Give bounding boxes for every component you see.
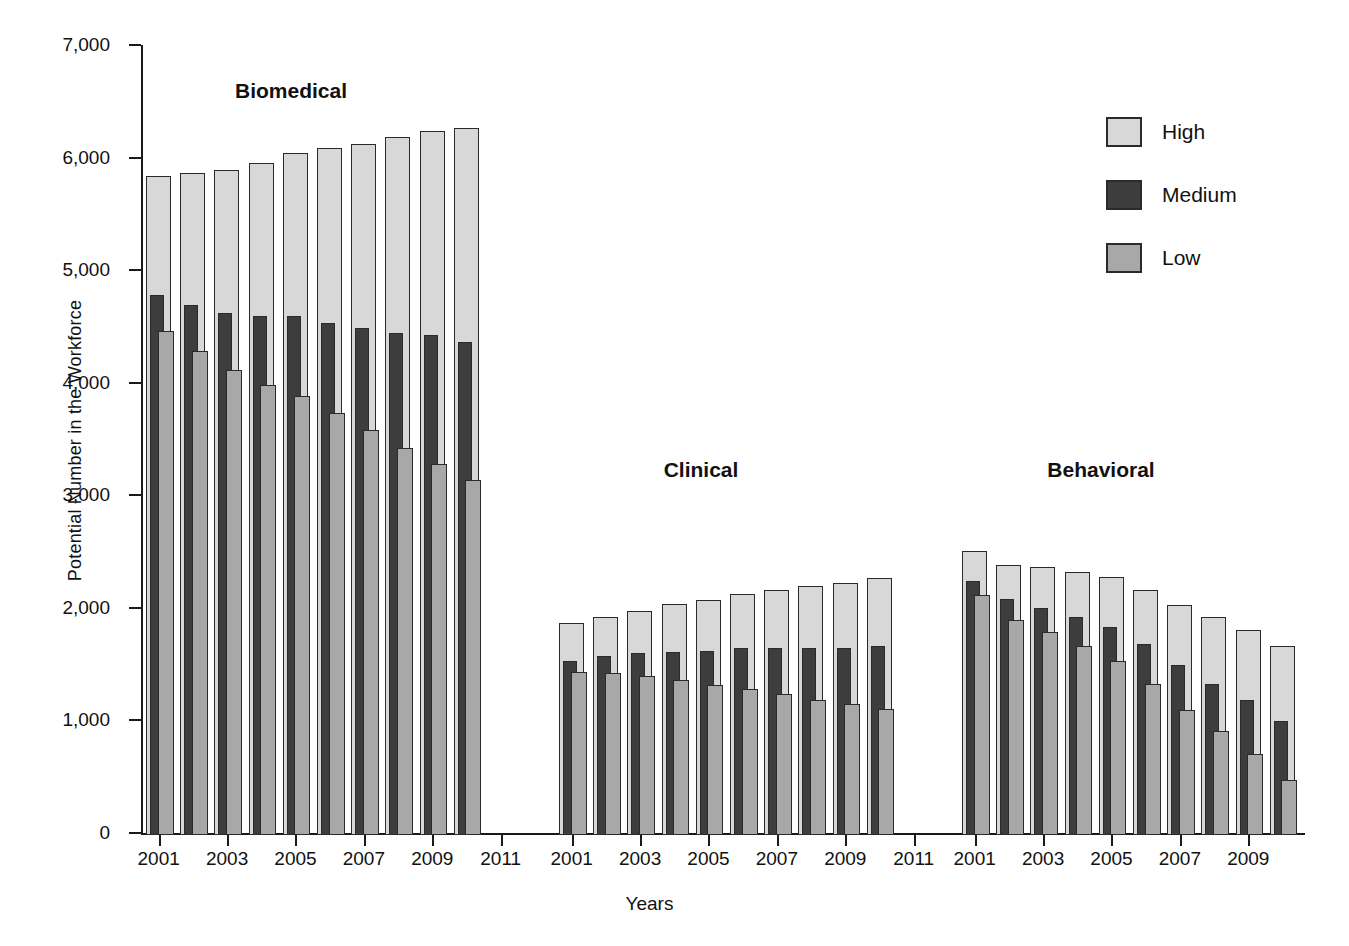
bar-low — [1213, 731, 1229, 835]
x-axis-tick-mark — [432, 835, 434, 846]
x-axis-tick-mark — [572, 835, 574, 846]
bar-slot — [797, 45, 831, 835]
y-axis-title: Potential Number in the Workforce — [65, 261, 86, 621]
y-axis-tick-label: 2,000 — [0, 597, 110, 619]
group-title-biomedical: Biomedical — [235, 79, 347, 103]
bar-slot — [384, 45, 418, 835]
y-axis-tick-mark — [129, 382, 141, 384]
x-axis-tick-label: 2001 — [551, 848, 593, 870]
bar-slot — [626, 45, 660, 835]
bar-slot — [350, 45, 384, 835]
bar-low — [363, 430, 379, 835]
legend: HighMediumLow — [1106, 100, 1336, 289]
bar-low — [1145, 684, 1161, 835]
bar-low — [1110, 661, 1126, 835]
legend-label: High — [1162, 120, 1205, 144]
x-axis-title: Years — [0, 893, 1349, 915]
bar-low — [810, 700, 826, 835]
x-axis-tick-label: 2005 — [1090, 848, 1132, 870]
y-axis-tick-mark — [129, 269, 141, 271]
bar-low — [397, 448, 413, 835]
bar-low — [878, 709, 894, 835]
bar-slot — [179, 45, 213, 835]
bar-low — [1281, 780, 1297, 835]
x-axis-tick-label: 2003 — [619, 848, 661, 870]
y-axis-tick-mark — [129, 832, 141, 834]
x-axis-tick-mark — [708, 835, 710, 846]
legend-swatch-low — [1106, 243, 1142, 273]
y-axis-tick-mark — [129, 719, 141, 721]
bar-slot — [282, 45, 316, 835]
legend-item-high: High — [1106, 100, 1336, 163]
legend-swatch-high — [1106, 117, 1142, 147]
y-axis-tick-label: 6,000 — [0, 147, 110, 169]
bar-slot — [145, 45, 179, 835]
x-axis-tick-mark — [159, 835, 161, 846]
y-axis-tick-label: 7,000 — [0, 34, 110, 56]
x-axis-tick-mark — [845, 835, 847, 846]
x-axis-tick-label: 2003 — [1022, 848, 1064, 870]
bar-group-biomedical — [145, 45, 590, 835]
bar-low — [1008, 620, 1024, 835]
group-title-behavioral: Behavioral — [1047, 458, 1154, 482]
bar-low — [974, 595, 990, 835]
x-axis-tick-mark — [227, 835, 229, 846]
bar-slot — [961, 45, 995, 835]
x-axis-tick-label: 2011 — [480, 848, 521, 870]
x-axis-tick-label: 2003 — [206, 848, 248, 870]
y-axis-tick-label: 0 — [0, 822, 110, 844]
legend-item-low: Low — [1106, 226, 1336, 289]
y-axis-tick-label: 1,000 — [0, 709, 110, 731]
bar-group-clinical — [558, 45, 1003, 835]
bar-slot — [832, 45, 866, 835]
bar-slot — [453, 45, 487, 835]
x-axis-tick-mark — [1248, 835, 1250, 846]
x-axis-tick-mark — [501, 835, 503, 846]
bar-slot — [248, 45, 282, 835]
bar-low — [571, 672, 587, 835]
bar-slot — [695, 45, 729, 835]
bar-slot — [729, 45, 763, 835]
bar-slot — [558, 45, 592, 835]
x-axis-tick-label: 2001 — [954, 848, 996, 870]
x-axis-tick-mark — [1180, 835, 1182, 846]
x-axis-tick-label: 2007 — [343, 848, 385, 870]
bar-slot — [1029, 45, 1063, 835]
bar-low — [226, 370, 242, 835]
bar-low — [1042, 632, 1058, 835]
x-axis-tick-label: 2009 — [824, 848, 866, 870]
y-axis-tick-mark — [129, 157, 141, 159]
bar-slot — [316, 45, 350, 835]
x-axis-tick-label: 2001 — [138, 848, 180, 870]
legend-item-medium: Medium — [1106, 163, 1336, 226]
bar-low — [260, 385, 276, 835]
bar-low — [605, 673, 621, 835]
x-axis-tick-label: 2005 — [687, 848, 729, 870]
legend-label: Medium — [1162, 183, 1237, 207]
bar-low — [158, 331, 174, 835]
x-axis-tick-mark — [1111, 835, 1113, 846]
y-axis-tick-mark — [129, 44, 141, 46]
x-axis-tick-mark — [975, 835, 977, 846]
bar-low — [639, 676, 655, 835]
bar-slot — [213, 45, 247, 835]
y-axis-tick-mark — [129, 607, 141, 609]
bar-low — [431, 464, 447, 835]
bar-low — [673, 680, 689, 835]
x-axis-tick-mark — [914, 835, 916, 846]
bar-slot — [419, 45, 453, 835]
bar-slot — [763, 45, 797, 835]
bar-slot — [995, 45, 1029, 835]
x-axis-title-text: Years — [626, 893, 674, 914]
bar-slot — [661, 45, 695, 835]
x-axis-tick-label: 2005 — [274, 848, 316, 870]
x-axis-tick-mark — [777, 835, 779, 846]
bar-slot — [866, 45, 900, 835]
bar-low — [294, 396, 310, 835]
y-axis-tick-label: 4,000 — [0, 372, 110, 394]
x-axis-tick-mark — [640, 835, 642, 846]
bar-low — [742, 689, 758, 835]
bar-low — [1179, 710, 1195, 835]
bar-low — [844, 704, 860, 835]
x-axis-tick-label: 2009 — [1227, 848, 1269, 870]
